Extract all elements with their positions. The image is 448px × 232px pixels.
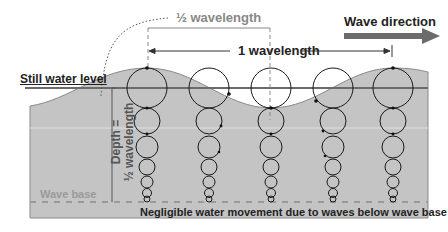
depth-label-line2: ½ wavelength [123, 102, 136, 182]
wave-direction-label: Wave direction [344, 14, 436, 29]
depth-label: Depth = ½ wavelength [110, 102, 136, 182]
wave-base-label: Wave base [40, 188, 96, 200]
half-wavelength-label: ½ wavelength [176, 10, 261, 25]
still-water-level-label: Still water level [20, 72, 107, 86]
wave-direction-arrow-icon [344, 28, 440, 44]
one-wavelength-label: 1 wavelength [238, 43, 320, 58]
negligible-movement-note: Negligible water movement due to waves b… [140, 206, 447, 218]
